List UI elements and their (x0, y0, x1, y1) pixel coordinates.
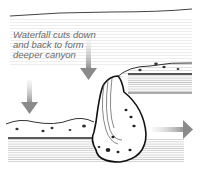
top-surface-line (10, 9, 192, 16)
right-arrow-icon (152, 120, 193, 139)
pebbles-lower (15, 124, 86, 132)
diagram-illustration (0, 0, 200, 174)
lower-surface-line (6, 118, 94, 124)
waterfall-canyon-diagram: Waterfall cuts down and back to form dee… (0, 0, 200, 174)
down-arrow-left-icon (21, 80, 38, 114)
caption-line-3: deeper canyon (13, 50, 113, 60)
diagram-caption: Waterfall cuts down and back to form dee… (13, 30, 113, 60)
